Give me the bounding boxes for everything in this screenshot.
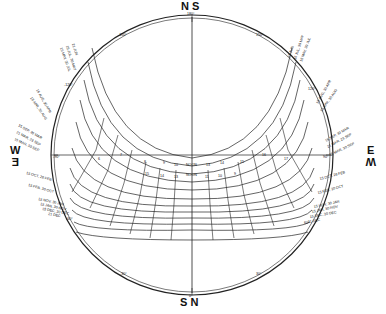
cardinal-left-bottom: E [12, 156, 19, 168]
cardinal-top: N S [181, 0, 199, 12]
azimuth-left-upper2: -120° [64, 83, 73, 87]
noon-label-upper: NOON [186, 163, 197, 167]
azimuth-left-lower2: -60° [66, 217, 73, 221]
date-label: 21 DEC [307, 218, 320, 224]
date-label: 15 OCT, 28 FEB [319, 170, 346, 181]
azimuth-lower-left: -30° [120, 272, 127, 276]
cardinal-right-bottom: W [365, 156, 376, 168]
azimuth-upper-left: -150° [118, 33, 127, 37]
date-label: 21 DEC [48, 212, 61, 218]
hour-label: 9 [163, 161, 165, 165]
hour-label: 6 [98, 157, 100, 161]
azimuth-bottom: 0° [189, 294, 193, 298]
date-label: 15 FEB, 30 OCT [317, 184, 344, 195]
hour-label: 7 [120, 153, 122, 157]
azimuth-right-mid: 90° [323, 155, 329, 159]
sun-path-diagram: N S S N W E E W 180° 0° -150° 150° -120°… [0, 0, 386, 314]
date-labels-left: 21 JUN 15 JUL, 30 MAY 15 MAY, 30 JUL 15 … [14, 43, 79, 218]
cardinal-right-top: E [367, 144, 374, 156]
hour-label: 17 [284, 157, 288, 161]
hour-label: 15 [145, 172, 149, 176]
azimuth-lower-right: 30° [256, 272, 262, 276]
noon-label-lower: NOON [186, 173, 197, 177]
hour-label: 10 [174, 163, 178, 167]
cardinal-left-top: W [10, 144, 21, 156]
hour-label: 8 [144, 160, 146, 164]
hour-label: 10 [218, 174, 222, 178]
hour-label: 14 [160, 174, 164, 178]
azimuth-top: 180° [187, 12, 195, 16]
hour-label: 14 [220, 161, 224, 165]
azimuth-left-mid: -90° [53, 155, 60, 159]
hour-label: 9 [234, 172, 236, 176]
azimuth-upper-right: 150° [256, 33, 264, 37]
hour-label: 15 [240, 160, 244, 164]
hour-label: 16 [262, 153, 266, 157]
hour-label: 13 [174, 175, 178, 179]
date-label: 15 OCT, 28 FEB [26, 171, 53, 182]
hour-label: 11 [205, 175, 209, 179]
hour-label: 13 [206, 163, 210, 167]
azimuth-right-upper2: 120° [308, 87, 316, 91]
date-label: 15 FEB, 30 OCT [28, 183, 55, 194]
